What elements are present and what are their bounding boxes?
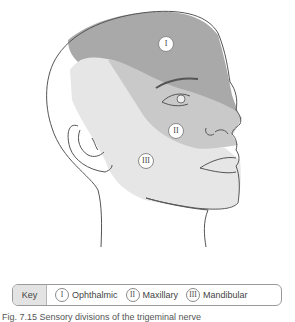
region-label-mandibular: III bbox=[138, 153, 154, 169]
key-title: Key bbox=[13, 285, 47, 305]
head-illustration bbox=[0, 0, 295, 270]
key-label-mandibular: Mandibular bbox=[203, 290, 248, 300]
key-item-maxillary: II Maxillary bbox=[126, 288, 179, 302]
legend-key: Key I Ophthalmic II Maxillary III Mandib… bbox=[12, 284, 282, 306]
figure-caption: Fig. 7.15 Sensory divisions of the trige… bbox=[2, 312, 201, 322]
trigeminal-diagram: I II III bbox=[0, 0, 295, 270]
iris bbox=[177, 95, 185, 103]
key-badge-ophthalmic: I bbox=[55, 288, 69, 302]
key-badge-maxillary: II bbox=[126, 288, 140, 302]
region-label-ophthalmic: I bbox=[158, 36, 174, 52]
neck-front bbox=[204, 210, 208, 247]
key-label-ophthalmic: Ophthalmic bbox=[72, 290, 118, 300]
neck-back bbox=[52, 128, 102, 247]
key-badge-mandibular: III bbox=[186, 288, 200, 302]
key-item-mandibular: III Mandibular bbox=[186, 288, 248, 302]
region-label-maxillary: II bbox=[168, 123, 184, 139]
key-item-ophthalmic: I Ophthalmic bbox=[55, 288, 118, 302]
key-label-maxillary: Maxillary bbox=[143, 290, 179, 300]
